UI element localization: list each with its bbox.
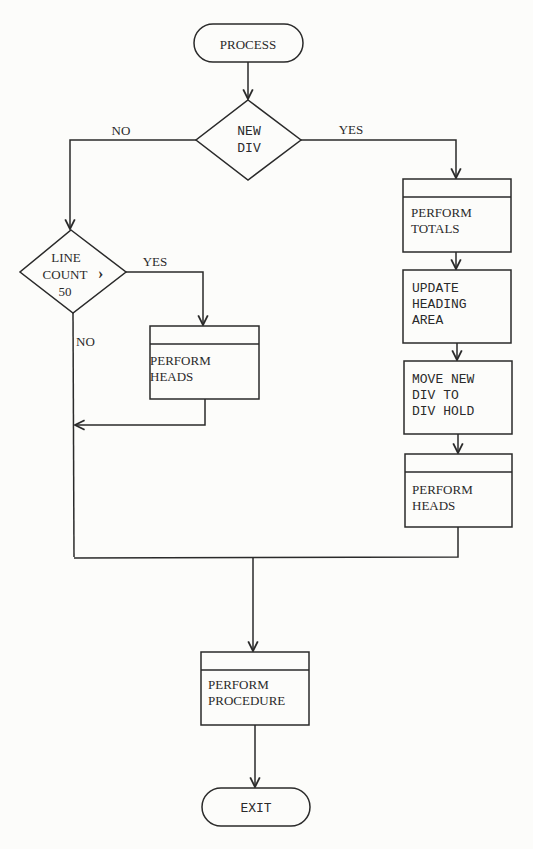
node-perform-procedure-line2: PROCEDURE: [208, 693, 285, 708]
node-perform-totals-line2: TOTALS: [411, 221, 460, 236]
node-perform-totals: PERFORM TOTALS: [403, 179, 511, 252]
label-line-count-yes: YES: [143, 254, 168, 269]
node-perform-totals-line1: PERFORM: [411, 205, 472, 220]
node-process-label: PROCESS: [220, 37, 276, 52]
edge-new-div-yes: [301, 140, 456, 178]
node-perform-heads-right-line1: PERFORM: [412, 482, 473, 497]
node-perform-procedure-line1: PERFORM: [208, 677, 269, 692]
node-line-count-line1: LINE: [51, 250, 81, 265]
node-perform-heads-left-line1: PERFORM: [150, 353, 211, 368]
node-perform-heads-left: PERFORM HEADS: [150, 326, 259, 399]
node-update-heading-line1: UPDATE: [412, 281, 459, 296]
node-update-heading-area: UPDATE HEADING AREA: [403, 270, 511, 343]
node-move-new-div: MOVE NEW DIV TO DIV HOLD: [404, 361, 512, 434]
node-new-div-line2: DIV: [237, 141, 261, 156]
edge-heads-left-return: [75, 399, 205, 425]
node-update-heading-line3: AREA: [412, 313, 443, 328]
node-update-heading-line2: HEADING: [412, 297, 467, 312]
node-perform-heads-right: PERFORM HEADS: [405, 454, 512, 527]
greater-than-icon: ›: [98, 265, 103, 282]
edge-merge-line: [74, 527, 458, 558]
node-new-div-decision: NEW DIV: [196, 100, 301, 180]
node-move-new-div-line3: DIV HOLD: [412, 404, 475, 419]
node-move-new-div-line1: MOVE NEW: [412, 372, 475, 387]
edge-line-count-yes: [126, 272, 203, 325]
node-exit-terminal: EXIT: [202, 788, 310, 826]
edge-new-div-no: [70, 140, 196, 229]
node-perform-heads-left-line2: HEADS: [150, 369, 193, 384]
node-line-count-line3: 50: [59, 284, 72, 299]
node-process-terminal: PROCESS: [194, 24, 303, 62]
node-exit-label: EXIT: [240, 801, 271, 816]
node-move-new-div-line2: DIV TO: [412, 388, 459, 403]
node-perform-heads-right-line2: HEADS: [412, 498, 455, 513]
node-new-div-line1: NEW: [237, 124, 261, 139]
flowchart: NO YES YES NO PROCESS NEW DIV LINE COUNT…: [0, 0, 533, 849]
label-new-div-yes: YES: [339, 122, 364, 137]
label-line-count-no: NO: [76, 334, 95, 349]
edge-line-count-no: [73, 313, 74, 557]
node-line-count-line2: COUNT: [43, 267, 88, 282]
node-perform-procedure: PERFORM PROCEDURE: [201, 652, 309, 725]
label-new-div-no: NO: [112, 123, 131, 138]
node-line-count-decision: LINE COUNT › 50: [20, 230, 126, 313]
